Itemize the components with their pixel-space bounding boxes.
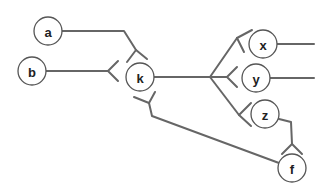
node-x[interactable]: x: [249, 30, 277, 58]
node-label: x: [259, 38, 267, 53]
node-label: y: [252, 72, 260, 87]
node-a[interactable]: a: [34, 17, 62, 45]
node-label: z: [262, 108, 269, 123]
edge-a-k: [62, 31, 147, 62]
node-y[interactable]: y: [242, 64, 270, 92]
node-f[interactable]: f: [278, 154, 306, 182]
edge-z-f: [279, 119, 302, 154]
node-label: f: [290, 162, 295, 177]
node-label: a: [44, 25, 52, 40]
node-b[interactable]: b: [18, 57, 46, 85]
node-k[interactable]: k: [126, 63, 154, 91]
edge-b-k: [46, 61, 118, 81]
node-label: k: [136, 71, 144, 86]
node-z[interactable]: z: [251, 100, 279, 128]
node-label: b: [28, 65, 36, 80]
diagram-canvas: a b k x y z f: [0, 0, 332, 193]
